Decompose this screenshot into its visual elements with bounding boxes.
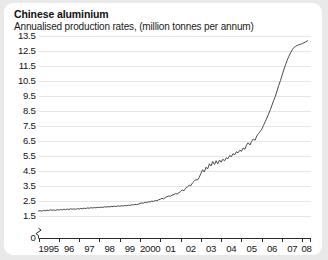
y-axis-baseline bbox=[36, 228, 41, 238]
x-tick-label: 2000 bbox=[140, 243, 160, 254]
x-tick-label: 98 bbox=[105, 243, 115, 254]
x-tick-label: 02 bbox=[186, 243, 196, 254]
y-tick-label: 13.5 bbox=[18, 30, 35, 41]
line-chart: 13.512.511.510.59.58.57.56.55.54.53.52.5… bbox=[4, 3, 322, 255]
y-tick-label: 7.5 bbox=[23, 120, 35, 131]
x-axis-labels: 19959697989920000102030405060708 bbox=[39, 243, 312, 254]
x-tick-label: 07 bbox=[287, 243, 297, 254]
x-tick-label: 97 bbox=[84, 243, 94, 254]
y-baseline-label: 0 bbox=[30, 232, 35, 243]
y-tick-label: 2.5 bbox=[23, 195, 35, 206]
y-tick-label: 11.5 bbox=[19, 60, 36, 71]
chart-plot-area: 13.512.511.510.59.58.57.56.55.54.53.52.5… bbox=[4, 3, 322, 255]
x-tick-label: 03 bbox=[206, 243, 216, 254]
y-tick-label: 3.5 bbox=[23, 180, 35, 191]
x-tick-label: 05 bbox=[247, 243, 257, 254]
x-tick-label: 06 bbox=[267, 243, 277, 254]
x-tick-label: 08 bbox=[301, 243, 311, 254]
y-tick-label: 1.5 bbox=[23, 210, 35, 221]
chart-card: Chinese aluminium Annualised production … bbox=[4, 3, 322, 255]
y-tick-label: 12.5 bbox=[18, 45, 35, 56]
x-axis bbox=[39, 238, 311, 242]
x-tick-label: 99 bbox=[125, 243, 135, 254]
y-tick-label: 8.5 bbox=[23, 105, 35, 116]
x-tick-label: 01 bbox=[165, 243, 175, 254]
y-tick-label: 5.5 bbox=[23, 150, 35, 161]
y-tick-label: 9.5 bbox=[23, 90, 35, 101]
x-tick-label: 1995 bbox=[39, 243, 59, 254]
y-axis-labels: 13.512.511.510.59.58.57.56.55.54.53.52.5… bbox=[18, 30, 35, 243]
x-tick-label: 96 bbox=[64, 243, 74, 254]
y-tick-label: 4.5 bbox=[23, 165, 35, 176]
gridlines bbox=[39, 37, 311, 217]
y-tick-label: 6.5 bbox=[23, 135, 35, 146]
y-tick-label: 10.5 bbox=[18, 75, 35, 86]
x-tick-label: 04 bbox=[226, 243, 237, 254]
